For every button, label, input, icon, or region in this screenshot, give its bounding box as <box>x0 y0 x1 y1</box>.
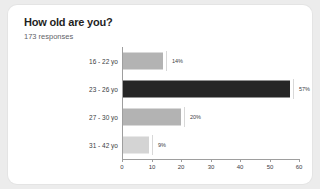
x-axis-tick-label: 0 <box>120 164 123 170</box>
bar-row: 31 - 42 yo9% <box>8 131 312 158</box>
bar-value-label: 9% <box>152 142 166 148</box>
x-axis-tick <box>270 159 271 162</box>
category-label: 27 - 30 yo <box>89 113 118 120</box>
bar-chart: 16 - 22 yo14%23 - 26 yo57%27 - 30 yo20%3… <box>8 47 312 184</box>
bar-row: 23 - 26 yo57% <box>8 75 312 102</box>
bar[interactable] <box>122 136 149 153</box>
x-axis-tick <box>211 159 212 162</box>
x-axis-tick <box>240 159 241 162</box>
x-axis-tick <box>122 159 123 162</box>
x-axis-tick <box>152 159 153 162</box>
bar-value-label: 20% <box>184 114 201 120</box>
category-label: 31 - 42 yo <box>89 141 118 148</box>
bar[interactable] <box>122 108 181 125</box>
category-label: 16 - 22 yo <box>89 57 118 64</box>
x-axis-tick <box>181 159 182 162</box>
x-axis-tick-label: 10 <box>149 164 156 170</box>
x-axis-tick-label: 30 <box>208 164 215 170</box>
x-axis-tick-label: 50 <box>267 164 274 170</box>
bar-value-label: 14% <box>166 58 183 64</box>
bar-row: 27 - 30 yo20% <box>8 103 312 130</box>
bar-row: 16 - 22 yo14% <box>8 47 312 74</box>
bar[interactable] <box>122 80 290 97</box>
category-label: 23 - 26 yo <box>89 85 118 92</box>
x-axis-tick-label: 20 <box>178 164 185 170</box>
response-card: How old are you? 173 responses 16 - 22 y… <box>8 5 312 184</box>
bar-value-label: 57% <box>293 86 310 92</box>
chart-screenshot: How old are you? 173 responses 16 - 22 y… <box>0 0 320 189</box>
x-axis-tick <box>299 159 300 162</box>
page-title: How old are you? <box>24 16 112 28</box>
bar[interactable] <box>122 52 163 69</box>
plot-area: 16 - 22 yo14%23 - 26 yo57%27 - 30 yo20%3… <box>8 47 312 184</box>
x-axis-tick-label: 60 <box>296 164 303 170</box>
y-axis-line <box>122 47 123 159</box>
response-count-label: 173 responses <box>24 32 73 41</box>
x-axis-tick-label: 40 <box>237 164 244 170</box>
